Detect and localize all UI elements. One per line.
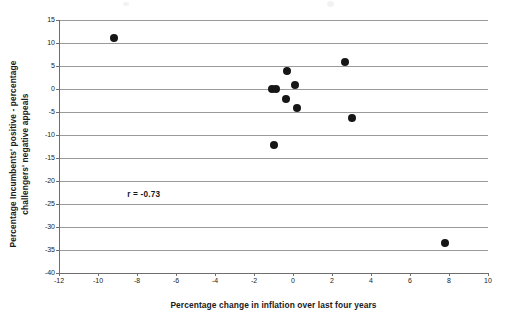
gridline bbox=[59, 227, 488, 228]
gridline bbox=[59, 204, 488, 205]
data-point bbox=[341, 58, 349, 66]
plot-area bbox=[59, 20, 488, 273]
x-axis-tick-label: -2 bbox=[242, 277, 266, 285]
gridline bbox=[59, 135, 488, 136]
x-axis-tick-label: 2 bbox=[320, 277, 344, 285]
x-axis-tick-label: -10 bbox=[86, 277, 110, 285]
x-axis-tick-label: 4 bbox=[359, 277, 383, 285]
x-axis-tick-label: 10 bbox=[476, 277, 500, 285]
gridline bbox=[59, 158, 488, 159]
data-point bbox=[283, 67, 291, 75]
y-axis-tick-label: 5 bbox=[33, 62, 55, 70]
gridline bbox=[59, 20, 488, 21]
y-axis-tick-label: -40 bbox=[33, 269, 55, 277]
x-axis-tick-label: -12 bbox=[47, 277, 71, 285]
y-axis-title-line-1: Percentage Incumbents' positive - percen… bbox=[8, 19, 20, 289]
gridline bbox=[59, 181, 488, 182]
gridline bbox=[59, 250, 488, 251]
data-point bbox=[282, 95, 290, 103]
y-axis-tick-label: -20 bbox=[33, 177, 55, 185]
data-point bbox=[270, 141, 278, 149]
scan-artifact bbox=[327, 1, 334, 7]
data-point bbox=[272, 85, 280, 93]
y-axis-tick-label: 0 bbox=[33, 85, 55, 93]
x-axis-tick-label: -8 bbox=[125, 277, 149, 285]
gridline bbox=[59, 43, 488, 44]
x-axis-title: Percentage change in inflation over last… bbox=[59, 300, 488, 310]
y-axis-tick-label: -25 bbox=[33, 200, 55, 208]
y-axis-tick-label: 10 bbox=[33, 39, 55, 47]
x-axis-tick-label: -4 bbox=[203, 277, 227, 285]
y-axis-tick-labels: 151050-5-10-15-20-25-30-35-40 bbox=[33, 20, 55, 273]
scan-artifact bbox=[123, 2, 129, 6]
y-axis-title-line-2: challengers' negative appeals bbox=[20, 19, 32, 289]
x-axis-tick-label: -6 bbox=[164, 277, 188, 285]
x-axis-tick-label: 0 bbox=[281, 277, 305, 285]
x-axis-tick-label: 6 bbox=[398, 277, 422, 285]
x-axis-tick-labels: -12-10-8-6-4-20246810 bbox=[59, 277, 488, 287]
gridline bbox=[59, 112, 488, 113]
gridline bbox=[59, 66, 488, 67]
x-axis-tick-label: 8 bbox=[437, 277, 461, 285]
scatter-chart-figure: Percentage Incumbents' positive - percen… bbox=[0, 0, 507, 322]
data-point bbox=[110, 34, 118, 42]
y-axis-line bbox=[59, 20, 60, 273]
y-axis-tick-label: 15 bbox=[33, 16, 55, 24]
x-axis-line bbox=[59, 273, 489, 274]
y-axis-tick-label: -10 bbox=[33, 131, 55, 139]
y-axis-tick-label: -5 bbox=[33, 108, 55, 116]
y-axis-tick-label: -30 bbox=[33, 223, 55, 231]
data-point bbox=[348, 114, 356, 122]
correlation-annotation: r = -0.73 bbox=[127, 190, 160, 199]
data-point bbox=[441, 239, 449, 247]
y-axis-tick-label: -15 bbox=[33, 154, 55, 162]
y-axis-tick-label: -35 bbox=[33, 246, 55, 254]
